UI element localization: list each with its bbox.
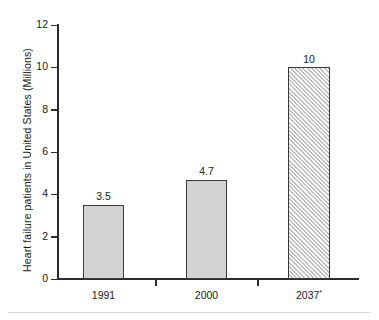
y-tick-label-2: 2 [8,231,48,241]
x-tick-label-1991-text: 1991 [92,289,115,301]
y-tick-label-6: 6 [8,146,48,156]
y-tick-10 [51,67,57,69]
bar-1991 [83,205,124,279]
bar-value-1991: 3.5 [69,190,139,202]
bar-2000 [186,180,227,280]
x-tick-label-1991: 1991 [64,289,144,301]
y-tick-label-8: 8 [8,104,48,114]
x-tick-label-2000-text: 2000 [195,289,218,301]
y-axis-line [57,24,59,280]
x-tick-label-2037-mark: * [319,289,322,296]
x-tick-1 [155,280,157,286]
y-tick-2 [51,236,57,238]
x-tick-label-2037: 2037* [269,289,349,301]
y-tick-8 [51,109,57,111]
y-tick-label-12: 12 [8,19,48,29]
x-tick-2 [257,280,259,286]
y-tick-label-10: 10 [8,61,48,71]
footer-rule [8,312,371,313]
bar-value-2000: 4.7 [172,165,242,177]
y-tick-label-0: 0 [8,273,48,283]
x-tick-label-2000: 2000 [167,289,247,301]
y-tick-6 [51,152,57,154]
bar-chart: Heart failure patients in United States … [0,0,379,320]
bar-2037 [288,67,330,279]
x-tick-label-2037-text: 2037 [296,289,319,301]
y-tick-4 [51,194,57,196]
y-tick-12 [51,25,57,27]
bar-value-2037: 10 [274,53,344,65]
y-tick-label-4: 4 [8,188,48,198]
y-tick-0 [51,279,57,281]
